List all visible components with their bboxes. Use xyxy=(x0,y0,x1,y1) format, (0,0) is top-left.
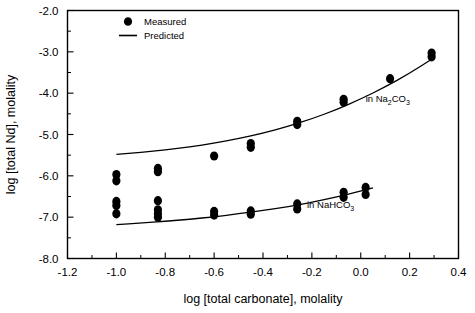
measured-data-point xyxy=(210,211,218,220)
predicted-curve xyxy=(116,59,431,154)
series-annotation-label: in NaHCO3 xyxy=(307,199,354,212)
x-axis-tick-label: -0.4 xyxy=(253,266,273,278)
x-axis-tick-label: -1.0 xyxy=(106,266,126,278)
y-axis-tick-label: -5.0 xyxy=(39,129,59,141)
y-axis-tick-label: -4.0 xyxy=(39,87,59,99)
plot-frame xyxy=(68,11,459,259)
series-annotation-label: in Na2CO3 xyxy=(366,93,410,106)
figure-container: -1.2-1.0-0.8-0.6-0.4-0.20.00.20.4-2.0-3.… xyxy=(0,0,475,313)
chart-svg: -1.2-1.0-0.8-0.6-0.4-0.20.00.20.4-2.0-3.… xyxy=(0,0,475,313)
measured-data-point xyxy=(112,176,120,185)
measured-data-point xyxy=(154,213,162,222)
y-axis-tick-label: -6.0 xyxy=(39,170,59,182)
x-axis-tick-label: -0.6 xyxy=(204,266,224,278)
y-axis-tick-label: -7.0 xyxy=(39,211,59,223)
measured-data-point xyxy=(154,196,162,205)
measured-data-point xyxy=(112,201,120,210)
x-axis-tick-label: -0.2 xyxy=(302,266,322,278)
x-axis-tick-label: -1.2 xyxy=(58,266,78,278)
x-axis-title: log [total carbonate], molality xyxy=(183,292,343,306)
measured-data-point xyxy=(154,167,162,176)
measured-data-point xyxy=(112,209,120,218)
x-axis-tick-label: 0.2 xyxy=(402,266,418,278)
measured-data-point xyxy=(247,143,255,152)
x-axis-tick-label: 0.0 xyxy=(353,266,369,278)
measured-data-point xyxy=(247,210,255,219)
x-axis-tick-label: 0.4 xyxy=(451,266,468,278)
x-axis-tick-label: -0.8 xyxy=(155,266,175,278)
y-axis-tick-label: -8.0 xyxy=(39,253,59,265)
legend-label-predicted: Predicted xyxy=(144,30,184,41)
legend-marker-measured xyxy=(124,17,132,26)
y-axis-tick-label: -2.0 xyxy=(39,5,59,17)
legend-label-measured: Measured xyxy=(144,16,186,27)
y-axis-title: log [total Nd], molality xyxy=(4,74,18,194)
y-axis-tick-label: -3.0 xyxy=(39,46,59,58)
measured-data-point xyxy=(210,151,218,160)
